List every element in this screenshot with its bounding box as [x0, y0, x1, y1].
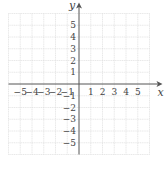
x-tick-label: 3 — [111, 87, 117, 97]
y-tick-label: 1 — [70, 67, 76, 77]
x-tick-label: 1 — [88, 87, 94, 97]
y-tick-label: −1 — [63, 91, 76, 101]
y-tick-label: −3 — [63, 114, 77, 124]
y-tick-label: −4 — [63, 126, 77, 136]
x-tick-label: 5 — [135, 87, 141, 97]
y-tick-label: −2 — [63, 103, 76, 113]
y-tick-label: 2 — [70, 56, 76, 66]
coordinate-plane: −5−4−3−2−112345 −5−4−3−2−112345 x y — [0, 0, 167, 169]
y-tick-label: −5 — [63, 138, 77, 148]
y-tick-label: 4 — [70, 32, 76, 42]
y-axis-label: y — [68, 0, 76, 12]
y-tick-label: 3 — [70, 44, 76, 54]
x-tick-label: 4 — [123, 87, 129, 97]
axes — [9, 3, 163, 155]
y-tick-label: 5 — [70, 20, 76, 30]
x-axis-label: x — [158, 86, 165, 99]
x-tick-label: 2 — [100, 87, 106, 97]
